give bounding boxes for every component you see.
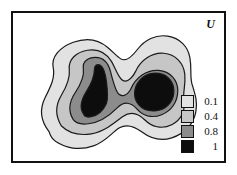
legend-row: 0.1: [181, 95, 218, 108]
legend-label: 1: [198, 141, 218, 152]
legend-row: 1: [181, 140, 218, 153]
legend-label: 0.8: [198, 126, 218, 137]
contour-figure: U 0.1 0.4 0.8 1: [0, 0, 237, 175]
legend-swatch-level-0-1: [181, 95, 194, 108]
legend-label: 0.4: [198, 111, 218, 122]
legend-swatch-level-1: [181, 140, 194, 153]
contour-core-right-peak: [135, 73, 174, 111]
legend-row: 0.4: [181, 110, 218, 123]
legend-label: 0.1: [198, 96, 218, 107]
legend-row: 0.8: [181, 125, 218, 138]
plot-frame: U 0.1 0.4 0.8 1: [11, 11, 226, 163]
legend-swatch-level-0-8: [181, 125, 194, 138]
field-label: U: [206, 18, 215, 30]
legend-swatch-level-0-4: [181, 110, 194, 123]
contour-legend: 0.1 0.4 0.8 1: [181, 95, 218, 153]
